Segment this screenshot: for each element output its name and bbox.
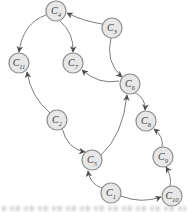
- node-circle-C5: [82, 150, 102, 170]
- edge-C2-to-C11: [27, 72, 50, 113]
- edge-C4-to-C7: [60, 21, 73, 52]
- citation-graph-figure: C4C3C11C7C6C2C8C9C5C1C10: [0, 0, 190, 212]
- node-circle-C4: [46, 1, 66, 21]
- node-circle-C7: [63, 53, 83, 73]
- node-C2: C2: [47, 110, 67, 130]
- node-circle-C10: [162, 186, 182, 206]
- node-C6: C6: [120, 74, 140, 94]
- edge-C3-to-C6: [109, 38, 122, 77]
- node-C1: C1: [101, 183, 121, 203]
- edge-C1-to-C10: [121, 196, 161, 200]
- node-circle-C11: [9, 53, 29, 73]
- node-C9: C9: [153, 147, 173, 167]
- node-C5: C5: [82, 150, 102, 170]
- node-circle-C3: [102, 18, 122, 38]
- edge-C10-to-C9: [166, 167, 171, 186]
- node-circle-C9: [153, 147, 173, 167]
- edge-C6-to-C8: [134, 92, 145, 110]
- node-circle-C1: [101, 183, 121, 203]
- node-C10: C10: [162, 186, 182, 206]
- node-C7: C7: [63, 53, 83, 73]
- node-circle-C8: [136, 111, 156, 131]
- edge-C1-to-C5: [88, 171, 102, 188]
- node-C11: C11: [9, 53, 29, 73]
- edge-C4-to-C11: [19, 15, 46, 52]
- edge-C9-to-C8: [154, 129, 162, 147]
- node-circle-C6: [120, 74, 140, 94]
- cropped-caption-artifact: [2, 206, 186, 211]
- node-C8: C8: [136, 111, 156, 131]
- edge-C5-to-C6: [101, 95, 127, 155]
- node-C4: C4: [46, 1, 66, 21]
- node-circle-C2: [47, 110, 67, 130]
- node-C3: C3: [102, 18, 122, 38]
- graph-svg: C4C3C11C7C6C2C8C9C5C1C10: [0, 0, 190, 212]
- edge-C6-to-C7: [82, 70, 119, 82]
- edge-C3-to-C4: [67, 13, 102, 24]
- edge-C2-to-C5: [62, 128, 85, 152]
